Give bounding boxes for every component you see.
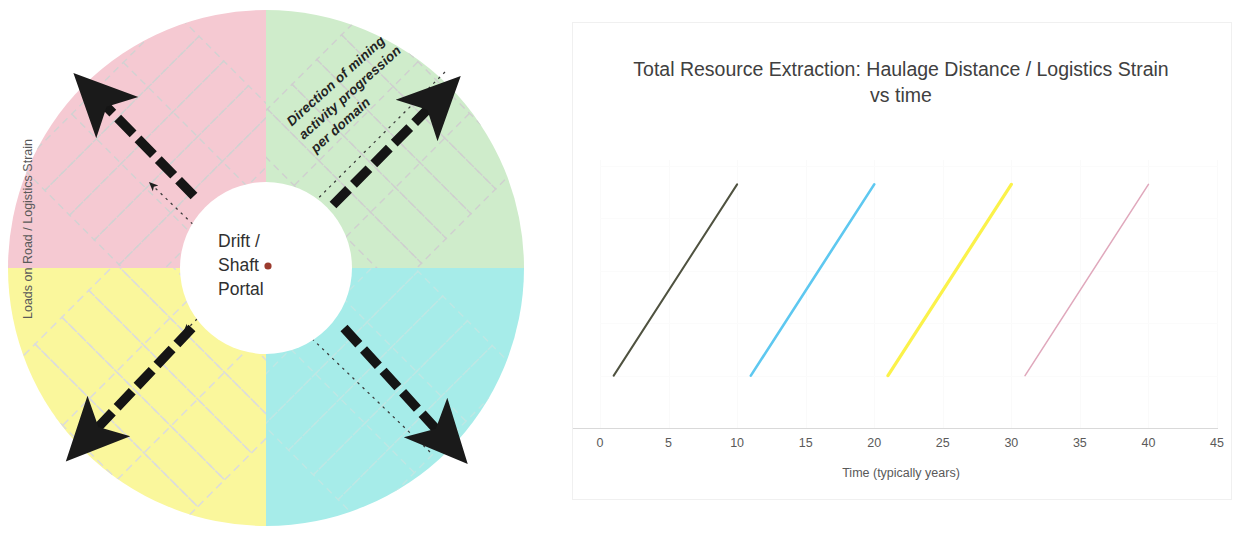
series-line-domain-4 (1025, 184, 1148, 375)
x-tick-35: 35 (1073, 436, 1087, 450)
x-tick-30: 30 (1004, 436, 1018, 450)
x-tick-5: 5 (665, 436, 672, 450)
series-line-domain-2 (751, 184, 874, 375)
x-tick-25: 25 (936, 436, 950, 450)
x-tick-20: 20 (867, 436, 881, 450)
screenshot-root: Drift / Shaft Portal Direction of mining… (0, 0, 1246, 535)
x-tick-45: 45 (1210, 436, 1224, 450)
series-line-domain-3 (888, 184, 1011, 375)
x-tick-10: 10 (730, 436, 744, 450)
series-line-domain-1 (614, 184, 737, 375)
chart-series-layer (0, 0, 1246, 535)
x-tick-40: 40 (1141, 436, 1155, 450)
x-tick-0: 0 (597, 436, 604, 450)
x-tick-15: 15 (799, 436, 813, 450)
x-axis-title: Time (typically years) (556, 466, 1246, 480)
